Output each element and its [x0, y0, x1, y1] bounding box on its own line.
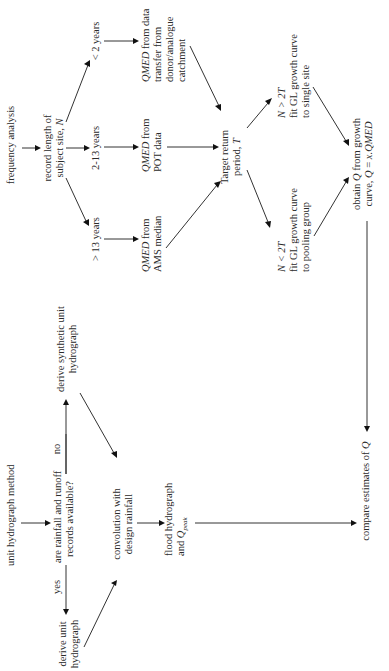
node-label: AMS median	[152, 212, 164, 272]
node-label: convolution with	[111, 488, 123, 560]
condition-text: N > 2T	[276, 88, 287, 118]
node-condition: N < 2T	[276, 182, 288, 272]
node-label: QMED from	[140, 116, 152, 172]
arrowhead-icon	[351, 520, 357, 526]
node-label: transfer from	[152, 2, 164, 82]
node-label: derive unit	[57, 618, 69, 670]
node-label: to pooling group	[300, 182, 312, 272]
node-label: catchment	[176, 2, 188, 82]
arrow-record-to-lt2	[66, 65, 88, 122]
arrow-single-site-to-obtain	[313, 87, 346, 141]
node-records-available-question: are rainfall and runoff records availabl…	[52, 475, 76, 563]
node-label: yes	[51, 577, 63, 597]
arrowhead-icon	[35, 145, 41, 151]
arrow-unit-to-convolution	[84, 585, 114, 647]
node-condition: N > 2T	[276, 28, 288, 118]
node-label: obtain Q from growth	[351, 114, 363, 214]
node-fit-single-site: N > 2T fit GL growth curve to single sit…	[276, 28, 312, 118]
arrowhead-icon	[45, 520, 51, 526]
node-label: POT data	[152, 116, 164, 172]
node-qmed-transfer: QMED from data transfer from donor/analo…	[140, 2, 188, 82]
node-label: hydrograph	[67, 304, 79, 394]
node-label: records available?	[64, 475, 76, 563]
arrowhead-icon	[63, 399, 69, 405]
node-derive-synthetic-unit-hydrograph: derive synthetic unit hydrograph	[55, 304, 79, 394]
arrowhead-icon	[133, 144, 139, 150]
node-target-return-period: Target return period, T	[219, 124, 243, 190]
edge-label-2to13-years: 2-13 years	[90, 124, 102, 172]
arrowhead-icon	[215, 104, 221, 111]
node-label: are rainfall and runoff	[52, 475, 64, 563]
node-derive-unit-hydrograph: derive unit hydrograph	[57, 618, 81, 670]
node-label: curve, Q = x.QMED	[363, 114, 375, 214]
condition-text: N < 2T	[276, 242, 287, 272]
node-label: flood hydrograph	[163, 484, 175, 556]
node-label: donor/analogue	[164, 2, 176, 82]
variable-n: N	[54, 118, 65, 125]
arrowhead-icon	[111, 451, 117, 458]
node-label: unit hydrograph method	[5, 476, 17, 566]
arrow-pooling-to-obtain	[314, 182, 346, 236]
arrowhead-icon	[265, 221, 271, 228]
node-compare-estimates: compare estimates of Q	[360, 436, 372, 546]
node-convolution-design-rainfall: convolution with design rainfall	[111, 488, 135, 560]
node-qmed-ams: QMED from AMS median	[140, 212, 164, 272]
node-frequency-analysis: frequency analysis	[5, 104, 17, 186]
node-record-length: record length of subject site, N	[42, 112, 66, 184]
node-label: fit GL growth curve	[288, 28, 300, 118]
node-label: fit GL growth curve	[288, 182, 300, 272]
arrow-synthetic-to-convolution	[80, 393, 114, 453]
arrow-target-to-ngt2t	[247, 103, 268, 128]
node-label-part: subject site,	[54, 125, 65, 177]
flowchart-canvas: frequency analysis record length of subj…	[0, 0, 389, 671]
node-label: record length of	[42, 112, 54, 184]
node-unit-hydrograph-method: unit hydrograph method	[5, 476, 17, 566]
node-obtain-q: obtain Q from growth curve, Q = x.QMED	[351, 114, 375, 214]
node-label: Target return	[219, 124, 231, 190]
node-label: period, T	[231, 124, 243, 190]
arrowhead-icon	[133, 38, 139, 44]
node-label: subject site, N	[54, 112, 66, 184]
edge-label-gt13-years: > 13 years	[90, 214, 102, 264]
node-label: design rainfall	[123, 488, 135, 560]
arrowhead-icon	[133, 236, 139, 242]
node-label: and Qpeak	[175, 484, 191, 556]
node-label: compare estimates of Q	[360, 436, 372, 546]
node-label: to single site	[300, 28, 312, 118]
arrow-target-to-nlt2t	[247, 170, 268, 222]
node-label: hydrograph	[69, 618, 81, 670]
arrowhead-icon	[265, 98, 272, 105]
arrowhead-icon	[343, 139, 349, 146]
arrow-record-to-gt13	[66, 178, 86, 221]
node-label: derive synthetic unit	[55, 304, 67, 394]
node-label: QMED from data	[140, 2, 152, 82]
edge-label-yes: yes	[51, 577, 63, 597]
arrowhead-icon	[364, 426, 370, 432]
edge-label-lt2-years: < 2 years	[90, 19, 102, 63]
arrow-qmed-ams-to-target	[166, 185, 217, 248]
node-label: frequency analysis	[5, 104, 17, 186]
node-label: no	[51, 441, 63, 457]
edge-label-no: no	[51, 441, 63, 457]
node-label: 2-13 years	[90, 124, 102, 172]
node-label: > 13 years	[90, 214, 102, 264]
arrow-qmed-transfer-to-target	[190, 46, 219, 106]
node-label: < 2 years	[90, 19, 102, 63]
node-flood-hydrograph-qpeak: flood hydrograph and Qpeak	[163, 484, 191, 556]
node-qmed-pot: QMED from POT data	[140, 116, 164, 172]
node-fit-pooling-group: N < 2T fit GL growth curve to pooling gr…	[276, 182, 312, 272]
node-label: QMED from	[140, 212, 152, 272]
arrowhead-icon	[63, 609, 69, 615]
